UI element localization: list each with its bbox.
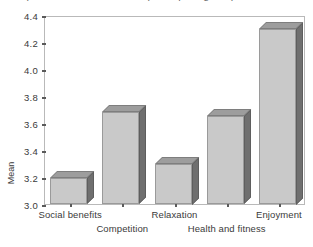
bar-side-face (139, 105, 146, 204)
bar-front-face (102, 112, 139, 204)
y-axis-tick-label: 3.8 (14, 92, 38, 103)
y-axis-tick-mark (42, 43, 46, 45)
bar-chart: Mean 3.03.23.43.63.84.04.24.4 Social ben… (0, 0, 313, 247)
bar (207, 109, 251, 204)
y-axis-tick-mark (42, 178, 46, 180)
y-axis-tick-label: 4.4 (14, 11, 38, 22)
y-axis-tick-label: 3.4 (14, 146, 38, 157)
y-axis-tick-mark (42, 205, 46, 207)
bar (102, 105, 146, 204)
x-axis-tick-mark (175, 204, 177, 207)
y-axis-tick-label: 3.6 (14, 119, 38, 130)
plot-area (44, 16, 305, 205)
y-axis-tick-mark (42, 151, 46, 153)
x-axis-tick-mark (227, 204, 229, 207)
x-axis-category-label: Competition (96, 223, 148, 234)
y-axis-tick-mark (42, 97, 46, 99)
x-axis-tick-mark (279, 204, 281, 207)
bar-side-face (296, 22, 303, 204)
x-axis-category-label: Health and fitness (188, 223, 266, 234)
bar-side-face (244, 109, 251, 204)
y-axis-tick-label: 4.0 (14, 65, 38, 76)
y-axis-tick-mark (42, 124, 46, 126)
y-axis-tick-label: 3.0 (14, 200, 38, 211)
bar (155, 157, 199, 205)
bar-front-face (50, 178, 87, 204)
x-axis-category-label: Relaxation (152, 209, 198, 220)
x-axis-category-label: Social benefits (38, 209, 101, 220)
y-axis-tick-label: 4.2 (14, 38, 38, 49)
y-axis-tick-mark (42, 16, 46, 18)
bar-front-face (259, 29, 296, 205)
y-axis-tick-label: 3.2 (14, 173, 38, 184)
bar-front-face (207, 116, 244, 204)
x-axis-category-label: Enjoyment (256, 209, 302, 220)
y-axis-tick-labels: 3.03.23.43.63.84.04.24.4 (14, 0, 38, 247)
bar-side-face (87, 172, 94, 204)
bar-front-face (155, 164, 192, 205)
bar-side-face (192, 157, 199, 204)
y-axis-tick-mark (42, 70, 46, 72)
bar (50, 171, 94, 204)
bar (259, 22, 303, 205)
x-axis-tick-mark (70, 204, 72, 207)
x-axis-tick-mark (122, 204, 124, 207)
